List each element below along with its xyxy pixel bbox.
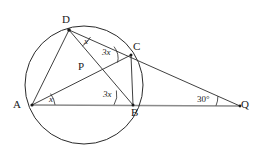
point-label-P: P: [78, 61, 84, 72]
geometry-canvas: [0, 0, 255, 150]
angle-arc-B: [114, 91, 117, 105]
geometry-figure: A B C D P Q x 3x x 3x 30°: [0, 0, 255, 150]
angle-arc-Q: [216, 96, 218, 106]
vertex-dot-C: [130, 54, 133, 57]
angle-arc-C: [114, 47, 118, 63]
vertex-dot-A: [30, 103, 33, 106]
angle-label-at-A: x: [49, 95, 53, 104]
secant-line-DQ: [69, 30, 240, 106]
vertex-dot-D: [67, 28, 71, 32]
point-label-A: A: [13, 99, 21, 110]
point-label-Q: Q: [241, 99, 249, 110]
angle-label-at-B: 3x: [103, 90, 112, 99]
angle-label-at-C: 3x: [102, 48, 111, 57]
point-label-C: C: [133, 41, 140, 52]
angle-label-at-Q: 30°: [197, 95, 210, 104]
point-label-D: D: [62, 14, 70, 25]
chord-line-BC: [131, 55, 133, 105]
point-label-B: B: [131, 107, 138, 118]
angle-label-at-D: x: [84, 37, 88, 46]
